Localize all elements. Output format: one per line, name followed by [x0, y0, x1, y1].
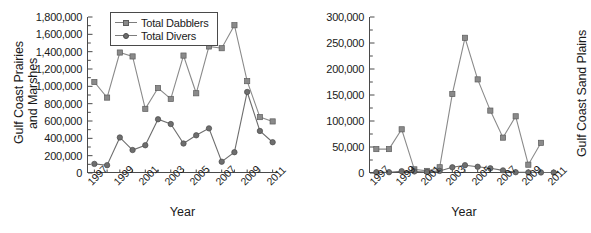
y-tick-label: 1,800,000 [36, 11, 82, 23]
y-tick-label: 0 [76, 167, 82, 179]
data-point-marker [244, 89, 249, 94]
legend-entry-dabblers: Total Dabblers [115, 16, 211, 29]
chart-panel-right: Gulf Coast Sand Plains 050,000100,000150… [283, 0, 565, 233]
data-point-marker [130, 147, 135, 152]
y-tick-label: 800,000 [44, 98, 82, 110]
data-point-marker [374, 146, 379, 151]
data-lines-right [370, 17, 560, 173]
legend-marker-circle-icon [115, 30, 137, 42]
y-tick-label: 1,400,000 [36, 46, 82, 58]
y-tick-label: 600,000 [44, 115, 82, 127]
data-point-marker [194, 133, 199, 138]
chart-legend: Total Dabblers Total Divers [110, 12, 218, 46]
series-line-divers [94, 92, 272, 165]
y-tick-label: 150,000 [326, 89, 364, 101]
y-tick-label: 1,600,000 [36, 28, 82, 40]
data-point-marker [488, 108, 493, 113]
y-tick-label: 100,000 [326, 115, 364, 127]
y-axis-label-right: Gulf Coast Sand Plains [575, 14, 591, 172]
data-point-marker [143, 106, 148, 111]
y-axis-tick-labels-left: 0200,000400,000600,000800,0001,000,0001,… [0, 17, 82, 173]
data-point-marker [219, 46, 224, 51]
y-tick-label: 200,000 [326, 63, 364, 75]
y-tick-label: 250,000 [326, 37, 364, 49]
y-tick-label: 50,000 [332, 141, 364, 153]
y-tick-label: 1,200,000 [36, 63, 82, 75]
data-point-marker [206, 126, 211, 131]
data-point-marker [130, 54, 135, 59]
data-point-marker [168, 121, 173, 126]
data-point-marker [399, 127, 404, 132]
data-point-marker [386, 146, 391, 151]
series-line-dabblers [376, 38, 541, 171]
legend-label-divers: Total Divers [141, 30, 196, 42]
y-tick-label: 400,000 [44, 132, 82, 144]
data-point-marker [538, 140, 543, 145]
data-point-marker [475, 77, 480, 82]
data-point-marker [270, 119, 275, 124]
y-tick-label: 1,000,000 [36, 80, 82, 92]
y-tick-label: 0 [358, 167, 364, 179]
data-point-marker [117, 135, 122, 140]
data-point-marker [155, 85, 160, 90]
data-point-marker [194, 91, 199, 96]
y-tick-label: 300,000 [326, 11, 364, 23]
data-point-marker [450, 91, 455, 96]
data-point-marker [500, 135, 505, 140]
data-point-marker [232, 150, 237, 155]
data-point-marker [155, 117, 160, 122]
data-point-marker [270, 140, 275, 145]
chart-panel-left: Gulf Coast Prairies and Marshes 0200,000… [0, 0, 283, 233]
data-point-marker [168, 96, 173, 101]
data-point-marker [245, 79, 250, 84]
data-point-marker [257, 128, 262, 133]
data-point-marker [143, 143, 148, 148]
data-point-marker [181, 141, 186, 146]
data-point-marker [257, 115, 262, 120]
y-tick-label: 200,000 [44, 150, 82, 162]
data-point-marker [219, 159, 224, 164]
data-point-marker [513, 114, 518, 119]
data-point-marker [181, 53, 186, 58]
x-axis-label-right: Year [369, 205, 559, 219]
plot-area-right [369, 17, 559, 173]
data-point-marker [92, 79, 97, 84]
x-axis-label-left: Year [87, 205, 278, 219]
data-point-marker [232, 23, 237, 28]
data-point-marker [117, 50, 122, 55]
legend-marker-square-icon [115, 17, 137, 29]
data-point-marker [105, 95, 110, 100]
data-point-marker [462, 35, 467, 40]
legend-label-dabblers: Total Dabblers [141, 17, 209, 29]
y-axis-tick-labels-right: 050,000100,000150,000200,000250,000300,0… [283, 17, 364, 173]
legend-entry-divers: Total Divers [115, 29, 211, 42]
